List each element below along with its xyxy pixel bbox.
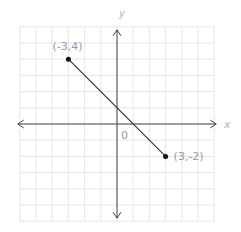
point-label: (3,-2) [174,150,204,163]
origin-label: 0 [121,129,128,142]
data-point [66,57,71,62]
coordinate-plane: x y 0 (-3,4)(3,-2) [0,0,241,232]
x-axis-label: x [223,119,230,130]
data-point [163,154,168,159]
line-segment-series: (-3,4)(3,-2) [52,40,203,163]
point-label: (-3,4) [52,40,82,53]
y-axis-label: y [118,8,126,19]
